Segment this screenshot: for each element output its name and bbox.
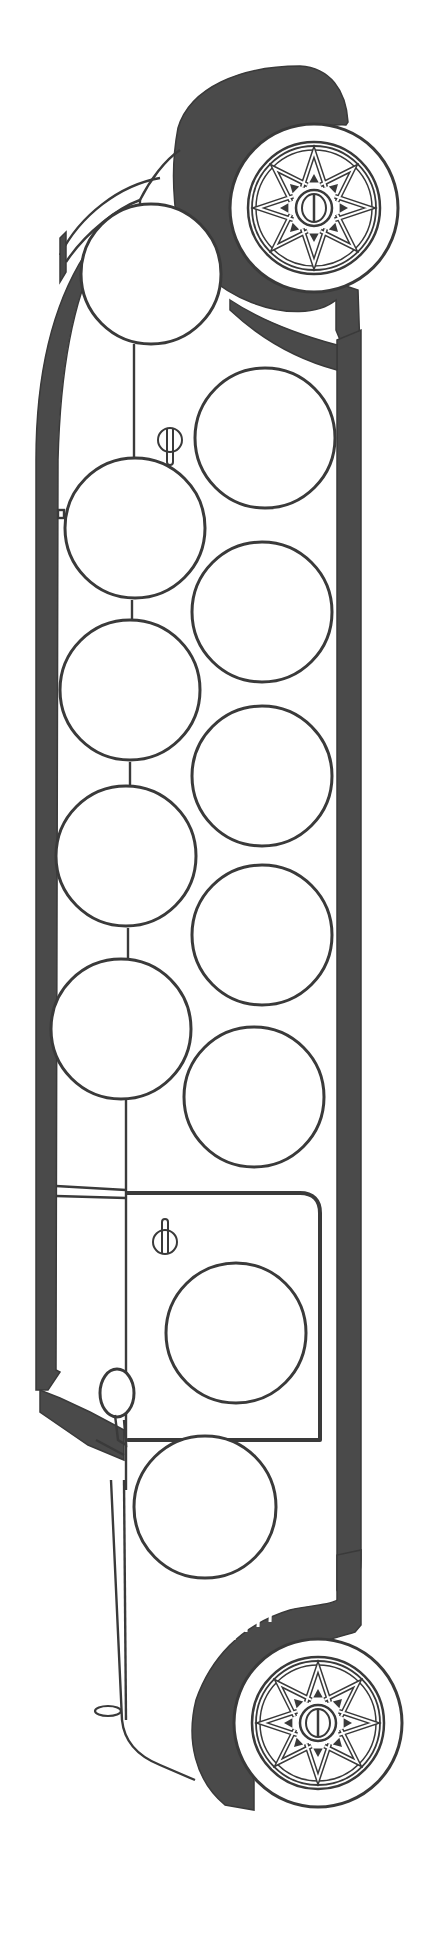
window-circle (81, 204, 221, 344)
window-circle (192, 542, 332, 682)
window-circle (195, 368, 335, 508)
rear-wheel-icon (230, 124, 398, 292)
front-window (134, 1436, 276, 1578)
window-circle (192, 706, 332, 846)
window-circle (184, 1027, 324, 1167)
door-window (166, 1263, 306, 1403)
window-row-left (51, 204, 221, 1099)
front-wheel-icon (234, 1639, 402, 1807)
bumper-tab-icon (95, 1706, 121, 1716)
limousine-illustration (0, 0, 445, 1942)
window-circle (192, 865, 332, 1005)
window-circle (51, 959, 191, 1099)
window-circle (60, 620, 200, 760)
rear-door-handle-icon (158, 428, 182, 465)
front-door-handle-icon (153, 1219, 177, 1254)
window-circle (56, 786, 196, 926)
window-row-right (184, 368, 335, 1167)
window-circle (65, 458, 205, 598)
